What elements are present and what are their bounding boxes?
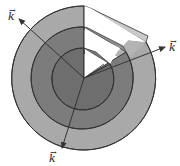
vector-arrow-icon: → (9, 7, 16, 15)
concentric-shells-diagram (0, 0, 180, 166)
label-k-upper-left: → k (8, 11, 15, 22)
vector-arrow-icon: → (170, 38, 177, 46)
label-k-bottom: → k (49, 153, 56, 164)
label-k-right: → k (169, 42, 176, 53)
vector-arrow-icon: → (50, 149, 57, 157)
